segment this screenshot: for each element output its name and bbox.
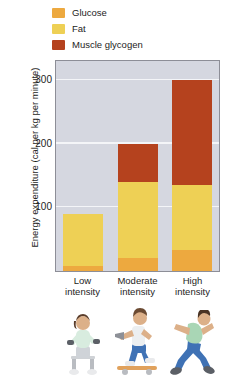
legend-swatch-fat xyxy=(52,24,65,34)
illustration-cell-moderate xyxy=(110,302,165,376)
chart-legend: Glucose Fat Muscle glycogen xyxy=(52,6,143,51)
x-label-line1: Low xyxy=(55,275,110,286)
legend-label-glucose: Glucose xyxy=(72,7,107,18)
legend-item-muscle-glycogen: Muscle glycogen xyxy=(52,38,143,51)
bar-segment-fat xyxy=(63,214,103,266)
bar-segment-muscle-glycogen xyxy=(172,80,212,185)
energy-expenditure-figure: Glucose Fat Muscle glycogen Energy expen… xyxy=(0,0,227,380)
legend-swatch-muscle-glycogen xyxy=(52,40,65,50)
x-label-low-intensity: Low intensity xyxy=(55,275,110,297)
illustration-cell-high xyxy=(165,302,220,376)
bar-high-intensity xyxy=(172,80,212,271)
y-tick-100: 100 xyxy=(20,201,52,212)
legend-label-muscle-glycogen: Muscle glycogen xyxy=(72,39,143,50)
y-axis-ticks: 300 200 100 xyxy=(14,60,52,272)
legend-item-glucose: Glucose xyxy=(52,6,143,19)
seated-weight-lifting-figure-icon xyxy=(60,310,106,376)
bar-segment-glucose xyxy=(118,258,158,271)
bar-low-intensity xyxy=(63,214,103,271)
legend-item-fat: Fat xyxy=(52,22,143,35)
x-axis-labels: Low intensity Moderate intensity High in… xyxy=(55,275,220,297)
x-label-line2: intensity xyxy=(110,286,165,297)
legend-swatch-glucose xyxy=(52,8,65,18)
bar-segment-fat xyxy=(172,185,212,250)
x-label-line1: Moderate xyxy=(110,275,165,286)
x-label-line2: intensity xyxy=(55,286,110,297)
legend-label-fat: Fat xyxy=(72,23,86,34)
x-label-high-intensity: High intensity xyxy=(165,275,220,297)
x-label-moderate-intensity: Moderate intensity xyxy=(110,275,165,297)
y-tick-300: 300 xyxy=(20,74,52,85)
bar-segment-glucose xyxy=(63,266,103,271)
skateboarding-figure-icon xyxy=(111,306,165,376)
x-label-line2: intensity xyxy=(165,286,220,297)
plot-area xyxy=(55,60,220,272)
running-figure-icon xyxy=(166,310,220,376)
y-tick-200: 200 xyxy=(20,137,52,148)
bar-segment-glucose xyxy=(172,250,212,271)
bar-segment-fat xyxy=(118,182,158,258)
illustration-cell-low xyxy=(55,302,110,376)
bar-moderate-intensity xyxy=(118,144,158,271)
bar-segment-muscle-glycogen xyxy=(118,144,158,182)
x-label-line1: High xyxy=(165,275,220,286)
activity-illustrations xyxy=(55,302,220,376)
